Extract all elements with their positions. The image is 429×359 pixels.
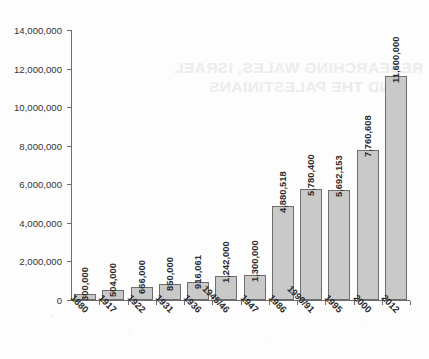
bar bbox=[357, 150, 379, 300]
bar-value-label: 11,600,000 bbox=[390, 37, 401, 83]
y-axis-tick-mark bbox=[67, 146, 71, 147]
y-axis-tick-mark bbox=[67, 184, 71, 185]
y-axis-tick-label: 4,000,000 bbox=[19, 217, 62, 228]
y-axis-tick-mark bbox=[67, 107, 71, 108]
bar-value-label: 1,300,000 bbox=[249, 240, 260, 282]
bar-value-label: 850,000 bbox=[164, 257, 175, 291]
y-axis-tick-label: 6,000,000 bbox=[19, 179, 62, 190]
bar-value-label: 916,061 bbox=[192, 255, 203, 289]
y-axis-tick-mark bbox=[67, 69, 71, 70]
bar-value-label: 4,880,518 bbox=[277, 171, 288, 213]
bar-value-label: 7,760,608 bbox=[362, 116, 373, 158]
y-axis-tick-mark bbox=[67, 30, 71, 31]
y-axis-tick-label: 14,000,000 bbox=[14, 25, 62, 36]
bar-value-label: 5,692,153 bbox=[333, 156, 344, 198]
bar-value-label: 504,000 bbox=[107, 263, 118, 297]
y-axis-tick-label: 10,000,000 bbox=[14, 102, 62, 113]
bar bbox=[328, 190, 350, 300]
y-axis-line bbox=[71, 30, 72, 301]
y-axis-tick-mark bbox=[67, 223, 71, 224]
y-axis-tick-label: 2,000,000 bbox=[19, 256, 62, 267]
bar-value-label: 5,780,400 bbox=[305, 154, 316, 196]
bar-chart: 02,000,0004,000,0006,000,0008,000,00010,… bbox=[0, 0, 429, 359]
y-axis-tick-mark bbox=[67, 261, 71, 262]
x-axis-tick-mark bbox=[410, 301, 411, 305]
y-axis-tick-label: 12,000,000 bbox=[14, 63, 62, 74]
bar-value-label: 666,000 bbox=[136, 260, 147, 294]
y-axis-tick-label: 8,000,000 bbox=[19, 140, 62, 151]
bar bbox=[385, 76, 407, 300]
y-axis-tick-label: 0 bbox=[57, 295, 62, 306]
bar bbox=[300, 189, 322, 300]
bar-value-label: 1,242,000 bbox=[220, 241, 231, 283]
